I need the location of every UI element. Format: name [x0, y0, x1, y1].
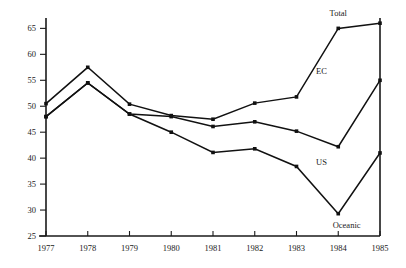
x-tick-label: 1983 — [288, 243, 305, 253]
y-axis-tick-labels: 253035404550556065 — [28, 23, 37, 241]
data-point-marker — [128, 112, 132, 116]
series-annotation-total: Total — [330, 8, 348, 18]
y-tick-label: 50 — [28, 101, 37, 111]
x-tick-label: 1981 — [205, 243, 222, 253]
data-point-marker — [211, 125, 215, 129]
data-point-marker — [169, 115, 173, 119]
data-point-marker — [253, 101, 257, 105]
data-point-marker — [211, 117, 215, 121]
data-point-marker — [169, 130, 173, 134]
x-tick-label: 1985 — [372, 243, 389, 253]
data-point-marker — [295, 165, 299, 169]
data-point-marker — [336, 27, 340, 31]
data-point-marker — [86, 81, 90, 85]
y-tick-label: 40 — [28, 153, 37, 163]
data-point-marker — [336, 212, 340, 216]
data-point-marker — [295, 129, 299, 133]
data-point-marker — [253, 120, 257, 124]
x-tick-label: 1984 — [330, 243, 348, 253]
data-point-marker — [44, 115, 48, 119]
series-annotation-oceanic: Oceanic — [333, 220, 361, 230]
series-line-oceanic — [46, 83, 380, 214]
y-tick-label: 45 — [28, 127, 37, 137]
y-tick-label: 35 — [28, 179, 37, 189]
series-annotation-us: US — [316, 157, 327, 167]
x-tick-label: 1977 — [38, 243, 55, 253]
x-tick-label: 1979 — [121, 243, 138, 253]
x-axis-tick-labels: 197719781979198019811982198319841985 — [38, 243, 389, 253]
x-tick-label: 1978 — [79, 243, 96, 253]
series-annotation-ec: EC — [316, 66, 327, 76]
y-axis-ticks — [40, 28, 46, 236]
data-point-marker — [336, 145, 340, 149]
series-line-ec — [46, 80, 380, 146]
data-point-marker — [378, 78, 382, 82]
x-tick-label: 1982 — [246, 243, 263, 253]
y-tick-label: 60 — [28, 49, 37, 59]
data-point-marker — [253, 147, 257, 151]
chart-container: 253035404550556065 197719781979198019811… — [0, 0, 406, 268]
line-chart: 253035404550556065 197719781979198019811… — [0, 0, 406, 268]
y-tick-label: 55 — [28, 75, 37, 85]
y-tick-label: 30 — [28, 205, 37, 215]
data-point-marker — [295, 95, 299, 99]
x-tick-label: 1980 — [163, 243, 180, 253]
data-point-marker — [86, 66, 90, 70]
data-point-marker — [211, 151, 215, 155]
y-tick-label: 65 — [28, 23, 37, 33]
data-point-marker — [378, 21, 382, 25]
data-point-marker — [44, 102, 48, 106]
series-markers-group — [44, 21, 382, 215]
series-line-total — [46, 23, 380, 119]
y-tick-label: 25 — [28, 231, 37, 241]
data-point-marker — [128, 102, 132, 106]
data-point-marker — [378, 151, 382, 155]
